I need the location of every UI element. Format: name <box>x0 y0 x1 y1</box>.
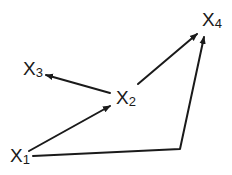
node-x4-base: X <box>202 9 215 30</box>
node-x1-label: X1 <box>10 146 30 165</box>
node-x2-label: X2 <box>116 88 136 107</box>
edge-x2-to-x3 <box>46 75 110 93</box>
edge-x1-to-x2 <box>29 106 110 151</box>
node-x1-subscript: 1 <box>23 152 30 167</box>
node-x3-base: X <box>23 58 36 79</box>
node-x2-base: X <box>116 87 129 108</box>
node-x3-subscript: 3 <box>36 65 43 80</box>
node-x2-subscript: 2 <box>129 94 136 109</box>
edge-x2-to-x4 <box>138 34 197 84</box>
node-x3-label: X3 <box>23 59 43 78</box>
node-x4-subscript: 4 <box>215 16 222 31</box>
node-x1-base: X <box>10 145 23 166</box>
node-x4-label: X4 <box>202 10 222 29</box>
